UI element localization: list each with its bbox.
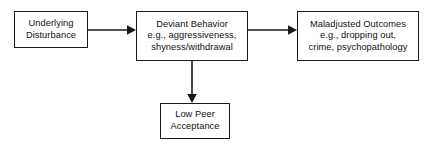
node-low-peer-acceptance-line-1: Low Peer xyxy=(175,109,215,121)
node-maladjusted-outcomes-line-1: Maladjusted Outcomes xyxy=(310,19,406,31)
node-underlying-disturbance[interactable]: Underlying Disturbance xyxy=(14,11,88,48)
node-deviant-behavior-line-3: shyness/withdrawal xyxy=(151,42,233,54)
node-maladjusted-outcomes-line-3: crime, psychopathology xyxy=(309,42,408,54)
node-maladjusted-outcomes[interactable]: Maladjusted Outcomes e.g., dropping out,… xyxy=(297,11,419,61)
arrow-behavior-to-peer-icon xyxy=(184,61,200,103)
arrow-behavior-to-outcomes-icon xyxy=(248,22,297,38)
node-deviant-behavior[interactable]: Deviant Behavior e.g., aggressiveness, s… xyxy=(136,11,248,61)
node-low-peer-acceptance[interactable]: Low Peer Acceptance xyxy=(160,103,230,139)
node-low-peer-acceptance-line-2: Acceptance xyxy=(170,121,219,133)
arrow-disturbance-to-behavior-icon xyxy=(88,22,136,38)
node-deviant-behavior-line-1: Deviant Behavior xyxy=(156,19,228,31)
node-deviant-behavior-line-2: e.g., aggressiveness, xyxy=(148,30,237,42)
node-underlying-disturbance-line-1: Underlying xyxy=(29,18,74,30)
node-underlying-disturbance-line-2: Disturbance xyxy=(26,30,76,42)
node-maladjusted-outcomes-line-2: e.g., dropping out, xyxy=(320,30,396,42)
flow-diagram: Underlying Disturbance Deviant Behavior … xyxy=(0,0,434,146)
